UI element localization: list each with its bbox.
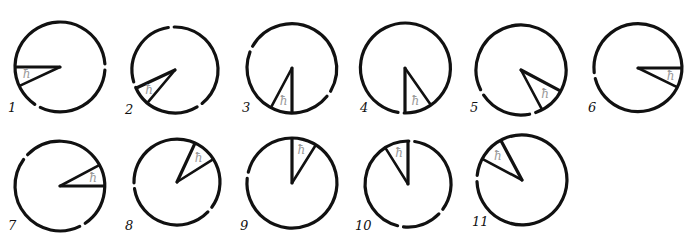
panel-8: ħ8 xyxy=(125,139,220,233)
circle-arc xyxy=(15,22,105,104)
circle-arc xyxy=(132,28,168,82)
hbar-symbol: ħ xyxy=(411,94,419,108)
panel-1: ħ1 xyxy=(8,22,105,115)
panel-2: ħ2 xyxy=(124,27,218,117)
figure-canvas: ħ1ħ2ħ3ħ4ħ5ħ6ħ7ħ8ħ9ħ10ħ11 xyxy=(0,0,695,251)
panel-5: ħ5 xyxy=(470,25,566,115)
panel-9: ħ9 xyxy=(240,138,337,233)
hbar-symbol: ħ xyxy=(280,94,288,108)
panel-6: ħ6 xyxy=(588,24,682,115)
panel-number-label: 1 xyxy=(8,100,16,115)
hbar-symbol: ħ xyxy=(298,143,306,157)
panel-3: ħ3 xyxy=(242,24,337,115)
hbar-symbol: ħ xyxy=(145,83,153,97)
hbar-symbol: ħ xyxy=(195,151,203,165)
circle-arc xyxy=(134,139,220,207)
panel-number-label: 5 xyxy=(470,100,478,115)
panel-number-label: 10 xyxy=(355,218,372,233)
circle-arc xyxy=(404,214,439,227)
circle-arc xyxy=(135,189,208,225)
rotating-wedge-diagram: ħ1ħ2ħ3ħ4ħ5ħ6ħ7ħ8ħ9ħ10ħ11 xyxy=(0,0,695,251)
hbar-symbol: ħ xyxy=(494,149,502,163)
panel-7: ħ7 xyxy=(8,141,105,233)
circle-arc xyxy=(174,27,218,103)
circle-arc xyxy=(15,160,80,231)
hbar-symbol: ħ xyxy=(23,67,31,81)
panel-number-label: 9 xyxy=(240,218,248,233)
panel-number-label: 4 xyxy=(359,100,368,115)
panel-11: ħ11 xyxy=(472,135,567,229)
circle-arc xyxy=(40,70,105,112)
circle-arc xyxy=(484,95,530,115)
circle-arc xyxy=(253,24,337,92)
hbar-symbol: ħ xyxy=(667,69,675,83)
circle-arc xyxy=(415,142,451,210)
panel-number-label: 8 xyxy=(125,218,133,233)
panel-number-label: 6 xyxy=(588,100,596,115)
panel-number-label: 3 xyxy=(242,100,250,115)
hbar-symbol: ħ xyxy=(541,87,549,101)
hbar-symbol: ħ xyxy=(395,146,403,160)
panel-10: ħ10 xyxy=(355,141,451,233)
panel-number-label: 11 xyxy=(472,214,489,229)
panel-number-label: 7 xyxy=(8,218,17,233)
hbar-symbol: ħ xyxy=(89,171,97,185)
panel-number-label: 2 xyxy=(124,102,133,117)
panel-4: ħ4 xyxy=(359,23,450,115)
wedge-line xyxy=(137,70,175,88)
